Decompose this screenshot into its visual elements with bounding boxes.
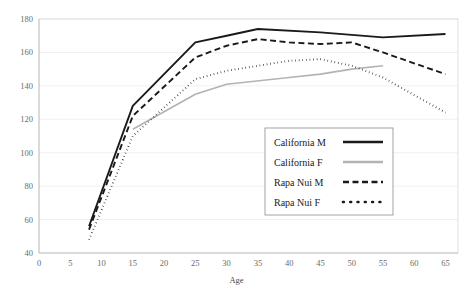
x-tick-label: 65 xyxy=(441,258,450,268)
y-tick-label: 140 xyxy=(20,81,33,91)
x-tick-label: 40 xyxy=(285,258,294,268)
chart-canvas: 406080100120140160180 051015202530354045… xyxy=(0,0,468,293)
x-tick-label: 35 xyxy=(254,258,263,268)
legend-label: California M xyxy=(274,137,326,148)
x-tick-label: 30 xyxy=(222,258,231,268)
x-tick-label: 0 xyxy=(37,258,41,268)
legend-label: California F xyxy=(274,157,323,168)
x-axis-title: Age xyxy=(229,275,243,285)
y-tick-label: 120 xyxy=(20,114,33,124)
x-tick-label: 60 xyxy=(410,258,419,268)
y-tick-label: 180 xyxy=(20,14,33,24)
x-tick-labels: 05101520253035404550556065 xyxy=(37,258,450,268)
x-tick-label: 55 xyxy=(379,258,388,268)
y-tick-label: 40 xyxy=(25,248,34,258)
x-tick-label: 20 xyxy=(160,258,169,268)
x-tick-label: 45 xyxy=(316,258,325,268)
x-tick-label: 10 xyxy=(97,258,106,268)
y-tick-label: 160 xyxy=(20,47,33,57)
plot-area-border xyxy=(39,19,458,253)
y-tick-label: 80 xyxy=(25,181,34,191)
y-tick-label: 100 xyxy=(20,148,33,158)
x-tick-label: 15 xyxy=(129,258,138,268)
line-chart: 406080100120140160180 051015202530354045… xyxy=(0,0,468,293)
y-tick-label: 60 xyxy=(25,215,34,225)
series-line-california-f xyxy=(133,66,383,130)
legend-label: Rapa Nui F xyxy=(274,197,321,208)
x-tick-label: 5 xyxy=(68,258,72,268)
x-tick-label: 50 xyxy=(347,258,356,268)
legend: California MCalifornia FRapa Nui MRapa N… xyxy=(265,128,393,215)
y-tick-labels: 406080100120140160180 xyxy=(20,14,33,258)
x-tick-label: 25 xyxy=(191,258,200,268)
legend-label: Rapa Nui M xyxy=(274,177,324,188)
